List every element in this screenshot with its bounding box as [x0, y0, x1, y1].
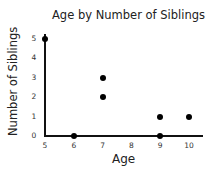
x-tick-label: 7 [96, 141, 110, 150]
y-tick-label: 1 [30, 112, 38, 121]
y-axis-line [44, 34, 46, 137]
data-point [42, 36, 48, 42]
y-tick-label: 2 [30, 92, 38, 101]
data-point [186, 114, 192, 120]
x-tick-label: 10 [182, 141, 196, 150]
data-point [100, 75, 106, 81]
y-axis-label: Number of Siblings [6, 28, 20, 136]
y-tick-label: 0 [30, 131, 38, 140]
x-tick-label: 6 [67, 141, 81, 150]
x-axis-line [44, 135, 203, 137]
x-tick-label: 9 [153, 141, 167, 150]
y-tick-label: 5 [30, 34, 38, 43]
x-tick-label: 5 [38, 141, 52, 150]
chart-title: Age by Number of Siblings [52, 8, 205, 22]
x-tick-label: 8 [124, 141, 138, 150]
data-point [157, 133, 163, 139]
data-point [71, 133, 77, 139]
x-axis-label: Age [112, 152, 135, 166]
y-tick-label: 3 [30, 73, 38, 82]
y-tick-label: 4 [30, 53, 38, 62]
data-point [157, 114, 163, 120]
data-point [100, 94, 106, 100]
